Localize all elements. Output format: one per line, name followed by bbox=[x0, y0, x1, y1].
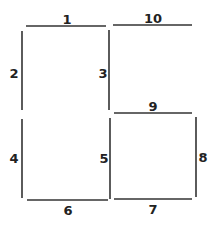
segment-10: 10 bbox=[113, 11, 192, 26]
segment-label: 9 bbox=[148, 99, 157, 114]
segment-3: 3 bbox=[98, 30, 109, 110]
segment-1: 1 bbox=[26, 12, 106, 27]
segment-label: 1 bbox=[62, 12, 71, 27]
segment-label: 6 bbox=[63, 203, 72, 218]
segment-group: 12345678910 bbox=[9, 11, 207, 218]
segment-label: 8 bbox=[198, 150, 207, 165]
segment-label: 4 bbox=[9, 151, 18, 166]
segment-2: 2 bbox=[9, 31, 22, 110]
segment-8: 8 bbox=[196, 117, 208, 197]
segment-label: 10 bbox=[144, 11, 162, 26]
segment-7: 7 bbox=[114, 199, 192, 217]
segment-label: 5 bbox=[99, 151, 108, 166]
segment-9: 9 bbox=[114, 99, 192, 114]
segment-label: 2 bbox=[9, 66, 18, 81]
segment-label: 7 bbox=[148, 202, 157, 217]
segment-label: 3 bbox=[98, 66, 107, 81]
segment-diagram: 12345678910 bbox=[0, 0, 215, 227]
segment-6: 6 bbox=[27, 200, 108, 218]
segment-5: 5 bbox=[99, 118, 110, 199]
segment-4: 4 bbox=[9, 119, 22, 198]
